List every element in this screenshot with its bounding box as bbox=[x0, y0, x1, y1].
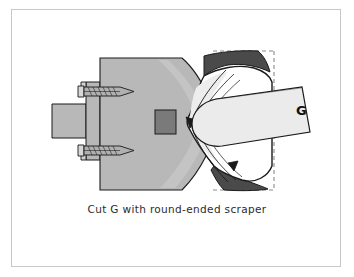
screw-head-top bbox=[78, 86, 84, 97]
cut-label-g: G bbox=[296, 103, 307, 118]
figure-root: G Cut G with round-ended scraper bbox=[0, 0, 354, 277]
figure-caption: Cut G with round-ended scraper bbox=[0, 203, 354, 215]
centre-tenon bbox=[155, 110, 176, 134]
woodturning-cross-section-diagram bbox=[0, 0, 354, 277]
lathe-spindle bbox=[52, 104, 86, 138]
screw-head-bottom bbox=[78, 145, 84, 156]
